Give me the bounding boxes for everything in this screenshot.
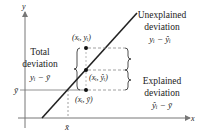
y-axis-label: y bbox=[21, 2, 26, 11]
unexplained-deviation-line2: deviation bbox=[144, 22, 180, 32]
x-mean-label: x̄ bbox=[64, 122, 70, 132]
explained-deviation-formula: ŷᵢ − ȳ bbox=[151, 100, 173, 110]
explained-deviation-line1: Explained bbox=[143, 76, 182, 86]
point-mean bbox=[84, 88, 88, 92]
total-deviation-line1: Total bbox=[30, 47, 50, 57]
x-axis-label: x bbox=[190, 114, 195, 123]
point-predicted bbox=[84, 68, 88, 72]
explained-deviation-brace bbox=[125, 70, 131, 90]
point-mean-label: (xᵢ, ȳ) bbox=[75, 95, 93, 104]
unexplained-deviation-brace bbox=[125, 48, 131, 70]
total-deviation-line2: deviation bbox=[22, 59, 58, 69]
point-observed bbox=[84, 46, 88, 50]
point-predicted-label: (xᵢ, ŷᵢ) bbox=[89, 73, 108, 82]
total-deviation-brace bbox=[74, 48, 80, 90]
regression-deviation-diagram: y x ȳ x̄ (xᵢ, yᵢ) (xᵢ, ŷᵢ) (xᵢ, ȳ) Total… bbox=[0, 0, 197, 134]
total-deviation-formula: yᵢ − ȳ bbox=[29, 72, 51, 82]
unexplained-deviation-line1: Unexplained bbox=[138, 10, 187, 20]
explained-deviation-line2: deviation bbox=[144, 88, 180, 98]
point-observed-label: (xᵢ, yᵢ) bbox=[72, 33, 91, 42]
unexplained-deviation-formula: yᵢ − ŷᵢ bbox=[148, 34, 171, 44]
y-mean-label: ȳ bbox=[13, 85, 19, 95]
